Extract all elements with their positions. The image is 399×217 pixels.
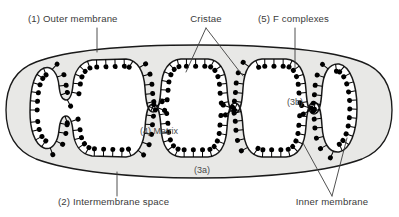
label-cristae: Cristae xyxy=(190,13,221,24)
diagram-canvas: (1) Outer membrane Cristae (5) F complex… xyxy=(0,0,399,217)
label-matrix: (4) Matrix xyxy=(140,126,178,136)
label-f-complexes: (5) F complexes xyxy=(258,13,329,24)
label-inner-membrane: Inner membrane xyxy=(296,196,369,207)
label-intermembrane-space: (2) Intermembrane space xyxy=(58,196,169,207)
label-crista-3a: (3a) xyxy=(194,165,210,175)
mitochondrion-diagram: (1) Outer membrane Cristae (5) F complex… xyxy=(0,0,399,217)
label-crista-3b: (3b) xyxy=(287,97,303,107)
label-outer-membrane: (1) Outer membrane xyxy=(28,13,118,24)
